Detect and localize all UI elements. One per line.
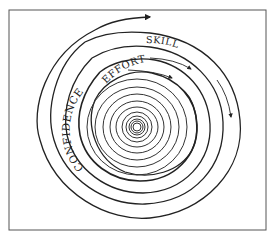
skills-arrow [217,80,231,117]
outer-arrow [95,17,150,30]
frame [9,10,266,230]
skills-label: SKILLS [0,0,181,50]
inner-rings [87,79,187,175]
confidence-effort-skills-spiral-diagram: CONFIDENCE EFFORT SKILLS [0,0,274,239]
